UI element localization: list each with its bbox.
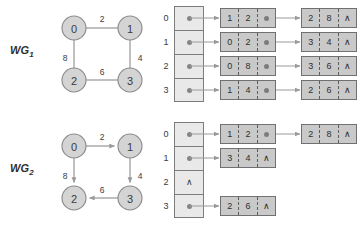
- pointer-dot-icon: [264, 16, 269, 21]
- pointer-dot-icon: [264, 88, 269, 93]
- pointer-dot-icon: [187, 88, 192, 93]
- list-node-vertex: 0: [221, 33, 238, 51]
- pointer-dot-icon: [187, 64, 192, 69]
- graph-node-label: 1: [127, 141, 133, 153]
- null-pointer-icon: ∧: [344, 62, 351, 71]
- list-node-weight: 2: [238, 33, 256, 51]
- graph-node-label: 0: [71, 141, 77, 153]
- list-node-cell: 28∧: [301, 8, 357, 28]
- graph-node-label: 0: [71, 23, 77, 35]
- null-pointer-icon: ∧: [263, 154, 270, 163]
- list-node-cell: 12: [220, 124, 276, 144]
- list-node-weight: 2: [238, 125, 256, 143]
- edge-weight-label: 4: [138, 53, 143, 63]
- list-node-vertex: 1: [221, 125, 238, 143]
- graph-node-label: 2: [71, 193, 77, 205]
- list-node-vertex: 0: [221, 57, 238, 75]
- index-array-cell: [174, 54, 204, 78]
- list-node-weight: 8: [319, 9, 337, 27]
- list-node-weight: 6: [319, 81, 337, 99]
- list-node-cell: 02: [220, 32, 276, 52]
- list-node-null: ∧: [338, 125, 356, 143]
- null-pointer-icon: ∧: [344, 38, 351, 47]
- row-index-label: 0: [160, 122, 172, 146]
- list-node-cell: 34∧: [301, 32, 357, 52]
- row-index-label: 2: [160, 170, 172, 194]
- edge-weight-label: 8: [63, 171, 68, 181]
- list-node-vertex: 3: [302, 57, 319, 75]
- edge-weight-label: 2: [100, 132, 105, 142]
- list-node-weight: 2: [238, 9, 256, 27]
- pointer-dot-icon: [187, 156, 192, 161]
- graph-label-main: WG: [10, 44, 29, 56]
- list-node-weight: 4: [238, 81, 256, 99]
- list-node-weight: 4: [319, 33, 337, 51]
- list-node-cell: 12: [220, 8, 276, 28]
- graph-diagram-wg1: 28640123: [52, 6, 152, 102]
- graph-label-subscript: 2: [29, 168, 34, 177]
- graph-diagram-wg2: 28640123: [52, 124, 152, 220]
- list-node-cell: 26∧: [301, 80, 357, 100]
- index-array-cell: [174, 6, 204, 30]
- null-pointer-icon: ∧: [344, 130, 351, 139]
- list-node-weight: 4: [238, 149, 256, 167]
- list-node-vertex: 3: [221, 149, 238, 167]
- index-array-cell: ∧: [174, 170, 204, 194]
- row-index-label: 0: [160, 6, 172, 30]
- list-node-pointer: [257, 125, 275, 143]
- list-node-null: ∧: [338, 81, 356, 99]
- graph-node-label: 3: [127, 193, 133, 205]
- null-pointer-icon: ∧: [344, 14, 351, 23]
- list-node-null: ∧: [338, 9, 356, 27]
- edge-weight-label: 4: [138, 171, 143, 181]
- list-node-cell: 28∧: [301, 124, 357, 144]
- row-index-label: 1: [160, 30, 172, 54]
- graph-node-label: 2: [71, 75, 77, 87]
- edge-weight-label: 6: [100, 67, 105, 77]
- pointer-dot-icon: [264, 40, 269, 45]
- list-node-vertex: 2: [302, 9, 319, 27]
- index-array-cell: [174, 78, 204, 102]
- list-node-vertex: 1: [221, 9, 238, 27]
- pointer-dot-icon: [264, 64, 269, 69]
- graph-label-wg1: WG1: [10, 44, 56, 59]
- list-node-vertex: 2: [302, 81, 319, 99]
- graph-label-wg2: WG2: [10, 162, 56, 177]
- index-array-cell: [174, 194, 204, 218]
- null-pointer-icon: ∧: [344, 86, 351, 95]
- list-node-cell: 26∧: [220, 196, 276, 216]
- pointer-dot-icon: [187, 40, 192, 45]
- list-node-weight: 6: [238, 197, 256, 215]
- list-node-vertex: 2: [302, 125, 319, 143]
- list-node-pointer: [257, 57, 275, 75]
- row-index-label: 3: [160, 78, 172, 102]
- edge-weight-label: 2: [100, 14, 105, 24]
- list-node-null: ∧: [338, 57, 356, 75]
- list-node-weight: 8: [238, 57, 256, 75]
- list-node-cell: 08: [220, 56, 276, 76]
- list-node-vertex: 3: [302, 33, 319, 51]
- list-node-cell: 34∧: [220, 148, 276, 168]
- edge-weight-label: 8: [63, 53, 68, 63]
- null-pointer-icon: ∧: [263, 202, 270, 211]
- graph-node-label: 1: [127, 23, 133, 35]
- list-node-pointer: [257, 9, 275, 27]
- pointer-dot-icon: [264, 132, 269, 137]
- graph-block-wg1: WG12864012301228∧10234∧20836∧31426∧: [0, 0, 341, 114]
- list-node-cell: 36∧: [301, 56, 357, 76]
- null-pointer-icon: ∧: [175, 171, 203, 194]
- pointer-dot-icon: [187, 204, 192, 209]
- pointer-dot-icon: [187, 16, 192, 21]
- row-index-label: 1: [160, 146, 172, 170]
- pointer-dot-icon: [187, 132, 192, 137]
- list-node-vertex: 1: [221, 81, 238, 99]
- list-node-null: ∧: [257, 149, 275, 167]
- graph-node-label: 3: [127, 75, 133, 87]
- list-node-pointer: [257, 81, 275, 99]
- list-node-weight: 8: [319, 125, 337, 143]
- edge-weight-label: 6: [100, 185, 105, 195]
- graph-block-wg2: WG22864012301228∧134∧2∧326∧: [0, 114, 341, 229]
- graph-label-subscript: 1: [29, 50, 34, 59]
- list-node-null: ∧: [338, 33, 356, 51]
